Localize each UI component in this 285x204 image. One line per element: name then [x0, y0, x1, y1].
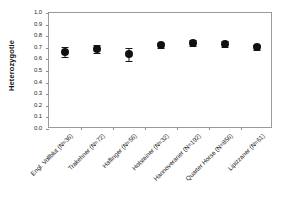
- y-axis-tick-label: 0.7: [34, 44, 42, 50]
- y-axis-tick-mark: [46, 71, 49, 72]
- y-axis-title: Heterozygotie: [0, 0, 22, 130]
- y-axis-tick-mark: [46, 94, 49, 95]
- error-bar-cap: [126, 48, 133, 49]
- y-axis-tick-labels: 1.00.90.80.70.60.50.40.30.20.10.0: [22, 12, 44, 128]
- y-axis-tick-label: 0.5: [34, 67, 42, 73]
- data-point: [91, 13, 103, 129]
- data-point: [251, 13, 263, 129]
- error-bar-cap: [62, 57, 69, 58]
- y-axis-tick-label: 0.6: [34, 55, 42, 61]
- error-bar-cap: [126, 61, 133, 62]
- data-point: [123, 13, 135, 129]
- data-point-marker: [61, 48, 69, 56]
- data-point: [187, 13, 199, 129]
- y-axis-title-text: Heterozygotie: [7, 40, 16, 91]
- y-axis-tick-mark: [46, 13, 49, 14]
- y-axis-tick-label: 0.4: [34, 79, 42, 85]
- data-point-marker: [253, 43, 261, 51]
- y-axis-tick-label: 0.2: [34, 102, 42, 108]
- y-axis-tick-mark: [46, 59, 49, 60]
- plot-area: [48, 12, 272, 128]
- y-axis-tick-mark: [46, 83, 49, 84]
- y-axis-tick-mark: [46, 117, 49, 118]
- y-axis-tick-label: 0.8: [34, 32, 42, 38]
- data-point-marker: [157, 41, 165, 49]
- x-axis-category-label: Engl. Vollblut (N=36): [29, 132, 74, 177]
- y-axis-tick-mark: [46, 106, 49, 107]
- y-axis-tick-mark: [46, 36, 49, 37]
- x-axis-category-labels: Engl. Vollblut (N=36)Trakehner (N=72)Haf…: [48, 128, 272, 204]
- data-point-marker: [221, 40, 229, 48]
- data-point: [59, 13, 71, 129]
- y-axis-tick-label: 1.0: [34, 9, 42, 15]
- y-axis-tick-label: 0.1: [34, 113, 42, 119]
- y-axis-tick-label: 0.3: [34, 90, 42, 96]
- y-axis-tick-mark: [46, 48, 49, 49]
- data-point-marker: [125, 50, 133, 58]
- data-point-marker: [189, 39, 197, 47]
- chart-figure: Heterozygotie 1.00.90.80.70.60.50.40.30.…: [0, 0, 285, 204]
- y-axis-tick-label: 0.0: [34, 125, 42, 131]
- y-axis-tick-mark: [46, 25, 49, 26]
- data-point: [219, 13, 231, 129]
- data-point-marker: [93, 45, 101, 53]
- data-point: [155, 13, 167, 129]
- y-axis-tick-label: 0.9: [34, 21, 42, 27]
